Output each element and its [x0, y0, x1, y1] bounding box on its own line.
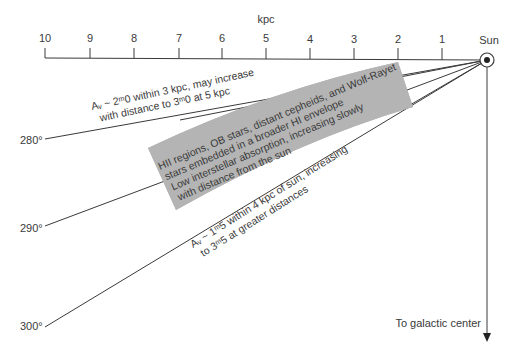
galactic-absorption-diagram: kpc 10 9 8 7 6 5 4 3 2 1 Sun	[0, 0, 510, 351]
tick-label: 5	[263, 32, 269, 44]
tick-label: 7	[176, 32, 182, 44]
longitude-label-300: 300°	[20, 320, 43, 332]
lower-note-line2: to 3ᵐ5 at greater distances	[198, 182, 310, 258]
sun-icon	[480, 53, 494, 67]
sun-label: Sun	[479, 34, 499, 46]
tick-label: 9	[87, 32, 93, 44]
longitude-label-290: 290°	[20, 222, 43, 234]
axis-unit-label: kpc	[257, 13, 275, 25]
tick-label: 10	[39, 32, 51, 44]
longitude-labels: 280° 290° 300°	[20, 134, 43, 332]
tick-label: 4	[307, 33, 313, 45]
galactic-center-label: To galactic center	[395, 317, 481, 329]
tick-label: 8	[131, 32, 137, 44]
galactic-center-arrow	[483, 67, 491, 342]
tick-label: 6	[219, 32, 225, 44]
axis-tick-labels: 10 9 8 7 6 5 4 3 2 1 Sun	[39, 32, 499, 46]
arrow-head-icon	[483, 333, 491, 342]
distance-axis	[45, 48, 487, 60]
tick-label: 3	[351, 33, 357, 45]
longitude-label-280: 280°	[20, 134, 43, 146]
tick-label: 1	[439, 33, 445, 45]
tick-label: 2	[395, 33, 401, 45]
